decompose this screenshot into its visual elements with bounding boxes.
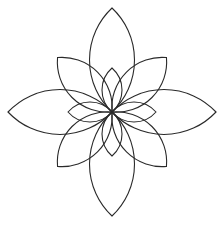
- flower-diagram: [0, 0, 222, 225]
- petal-layer: [8, 8, 216, 216]
- large-axis-petal-4: [90, 112, 135, 216]
- large-axis-petal-3: [8, 90, 112, 135]
- large-axis-petal-2: [90, 8, 135, 112]
- flower-diagram-canvas: [0, 0, 222, 225]
- large-axis-petal-1: [112, 90, 216, 135]
